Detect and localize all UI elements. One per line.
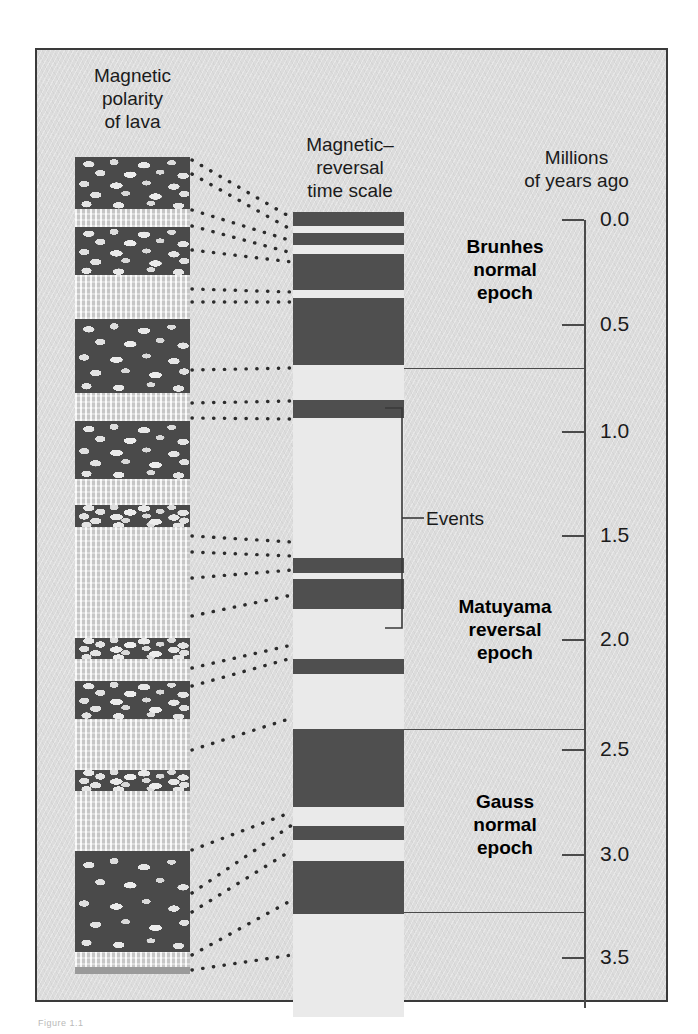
timescale-band-normal xyxy=(293,212,404,226)
timescale-band-normal xyxy=(293,233,404,245)
lava-band-normal xyxy=(75,851,190,952)
axis-tick-label: 0.5 xyxy=(600,313,629,334)
lava-column-base xyxy=(75,967,190,974)
figure-frame: Magnetic polarity of lava Magnetic– reve… xyxy=(35,48,668,1002)
axis-tick-label: 2.5 xyxy=(600,738,629,759)
axis-tick xyxy=(562,854,584,856)
lava-band-reversed xyxy=(75,393,190,421)
time-axis-line xyxy=(584,220,586,1008)
timescale-column-header: Magnetic– reversal time scale xyxy=(275,133,425,202)
lava-band-reversed xyxy=(75,952,190,967)
timescale-band-normal xyxy=(293,729,404,807)
lava-band-normal xyxy=(75,770,190,791)
timescale-band-normal xyxy=(293,254,404,290)
epoch-boundary-matuyama-gauss xyxy=(404,729,585,730)
axis-tick xyxy=(562,749,584,751)
axis-tick-label: 0.0 xyxy=(600,208,629,229)
axis-header: Millions of years ago xyxy=(489,146,664,192)
axis-tick xyxy=(562,535,584,537)
lava-band-reversed xyxy=(75,479,190,505)
lava-polarity-column xyxy=(75,157,190,967)
axis-tick xyxy=(562,957,584,959)
axis-tick xyxy=(562,431,584,433)
lava-band-reversed xyxy=(75,209,190,227)
lava-band-reversed xyxy=(75,719,190,770)
axis-tick-label: 1.0 xyxy=(600,420,629,441)
axis-tick-label: 3.0 xyxy=(600,843,629,864)
axis-tick xyxy=(562,639,584,641)
lava-band-normal xyxy=(75,638,190,659)
lava-band-normal xyxy=(75,681,190,719)
timescale-band-normal xyxy=(293,826,404,840)
lava-band-normal xyxy=(75,505,190,527)
lava-band-reversed xyxy=(75,527,190,638)
figure-caption-remnant: Figure 1.1 xyxy=(38,1018,84,1028)
axis-tick-label: 2.0 xyxy=(600,628,629,649)
lava-band-normal xyxy=(75,157,190,209)
axis-tick-label: 1.5 xyxy=(600,524,629,545)
timescale-band-normal xyxy=(293,861,404,914)
epoch-boundary-gauss-gilbert xyxy=(404,912,585,913)
lava-band-reversed xyxy=(75,791,190,851)
lava-band-normal xyxy=(75,319,190,393)
epoch-label-gauss: Gauss normal epoch xyxy=(430,790,580,859)
timescale-band-normal xyxy=(293,659,404,674)
epoch-boundary-brunhes-matuyama xyxy=(404,368,585,369)
axis-tick-label: 3.5 xyxy=(600,946,629,967)
lava-band-reversed xyxy=(75,275,190,319)
lava-band-normal xyxy=(75,421,190,479)
events-label: Events xyxy=(426,509,484,528)
timescale-band-normal xyxy=(293,298,404,365)
axis-tick xyxy=(562,219,584,221)
axis-tick xyxy=(562,324,584,326)
lava-band-reversed xyxy=(75,659,190,681)
epoch-label-brunhes: Brunhes normal epoch xyxy=(430,235,580,304)
lava-column-header: Magnetic polarity of lava xyxy=(55,64,210,133)
lava-band-normal xyxy=(75,227,190,275)
